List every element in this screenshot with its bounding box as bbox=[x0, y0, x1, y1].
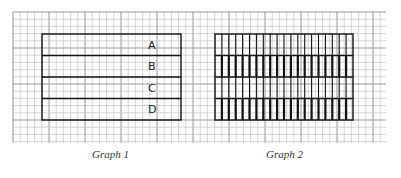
row-label-c: C bbox=[148, 82, 156, 95]
row-label-a: A bbox=[148, 39, 156, 52]
graph-1-caption: Graph 1 bbox=[92, 148, 129, 160]
graph-2-caption: Graph 2 bbox=[266, 148, 303, 160]
row-label-d: D bbox=[148, 103, 156, 116]
row-label-b: B bbox=[148, 60, 156, 73]
graph-1-diagram: ABCD bbox=[42, 34, 181, 120]
graph-2-diagram bbox=[215, 34, 353, 120]
graph-paper-canvas: ABCD bbox=[0, 0, 401, 178]
